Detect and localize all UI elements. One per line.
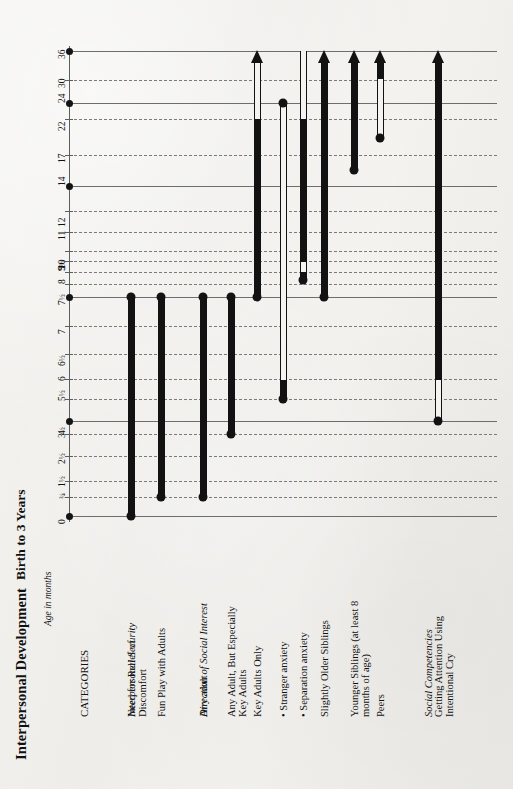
tick-label-5: 5½ [57,390,67,401]
axis-point-4 [66,418,73,425]
bar-any-adult[interactable] [200,0,207,560]
tick-label-0: 0 [57,519,67,524]
bar-segment-hollow [377,79,384,138]
bar-start-dot [350,166,359,175]
bar-getting-attention-using-intentional-cry[interactable] [435,0,442,560]
tick-label-8: 8 [57,279,67,284]
bar-key-adults-only[interactable] [254,0,261,560]
category-label-fun-play-with-adults: Fun Play with Adults [156,527,167,717]
tick-label-2: 2½ [57,453,67,464]
bar-separation-anxiety[interactable] [300,0,307,560]
arrow-continues-icon [432,50,444,63]
axis-tick-22 [65,119,73,120]
category-label-key-adults-only: Key Adults Only [252,527,263,717]
axis-tick-9 [65,272,73,273]
category-label-slightly-older-siblings: Slightly Older Siblings [319,527,330,717]
arrow-continues-icon [318,50,330,63]
bar-segment-filled [128,297,135,516]
bar-segment-filled [228,297,235,434]
axis-tick-8 [65,284,73,285]
bar-segment-filled [435,63,442,380]
tick-label-17: 17 [57,154,67,164]
bar-start-dot [320,293,329,302]
bar-end-dot [199,293,208,302]
bar-segment-filled [351,63,358,170]
bar-segment-filled [158,297,165,497]
tick-label-1: 1½ [57,476,67,487]
bar-any-adult-but-especially-key-adults[interactable] [228,0,235,560]
tick-label-36: 36 [57,50,67,60]
bar-segment-hollow [300,262,307,272]
bar-fun-play-with-adults[interactable] [158,0,165,560]
bar-segment-hollow [300,51,307,119]
category-label-peers: Peers [375,527,386,717]
bar-start-dot [299,276,308,285]
category-label-younger-siblings-at-least-8-months-of-age: Younger Siblings (at least 8months of ag… [349,527,372,717]
bar-start-dot [127,512,136,521]
bar-end-dot [227,293,236,302]
categories-header: CATEGORIES [78,650,90,717]
bar-start-dot [434,417,443,426]
bar-segment-filled [254,119,261,297]
category-label-separation-anxiety: • Separation anxiety [298,527,309,717]
bar-end-dot [127,293,136,302]
bar-segment-filled [300,119,307,262]
bar-start-dot [279,395,288,404]
category-label-getting-attention-using-intentional-cry: Getting Attention UsingIntentional Cry [433,527,456,717]
axis-tick-12 [65,211,73,212]
tick-label-6: 6½ [57,355,67,366]
axis-tick-7 [65,326,73,327]
category-label-need-for-relief-of-discomfort: Need for Relief ofDiscomfort [126,527,149,717]
bar-stranger-anxiety[interactable] [280,0,287,560]
tick-label-14: 14 [57,177,67,187]
tick-label-12: 12 [57,218,67,228]
bar-segment-hollow [254,63,261,119]
bar-start-dot [157,493,166,502]
bar-start-dot [199,493,208,502]
tick-label-4: 4 [57,430,67,435]
tick-label-6: 6 [57,376,67,381]
bar-peers[interactable] [377,0,384,560]
bar-younger-siblings-at-least-8-months-of-age[interactable] [351,0,358,560]
axis-tick-10 [65,251,73,252]
arrow-continues-icon [374,50,386,63]
bar-need-for-relief-of-discomfort[interactable] [128,0,135,560]
tick-label-34: ¾ [57,493,67,499]
bar-end-dot [279,99,288,108]
bar-segment-filled [377,63,384,79]
bar-start-dot [376,134,385,143]
tick-label-30: 30 [57,79,67,89]
bar-segment-hollow [435,380,442,421]
bar-start-dot [227,430,236,439]
tick-label-11: 11 [57,231,67,240]
tick-label-24: 24 [57,94,67,104]
category-label-stranger-anxiety: • Stranger anxiety [278,527,289,717]
bar-segment-filled [200,297,207,497]
bar-segment-hollow [280,103,287,380]
tick-label-7: 7 [57,329,67,334]
arrow-continues-icon [251,50,263,63]
category-label-any-adult: Any adult [198,527,209,717]
arrow-continues-icon [348,50,360,63]
category-label-any-adult-but-especially-key-adults: Any Adult, But EspeciallyKey Adults [226,527,249,717]
bar-segment-filled [321,63,328,297]
bar-end-dot [157,293,166,302]
bar-start-dot [253,293,262,302]
tick-label-22: 22 [57,122,67,132]
tick-label-10: 10 [57,260,67,270]
bar-slightly-older-siblings[interactable] [321,0,328,560]
tick-label-7: 7½ [57,294,67,305]
